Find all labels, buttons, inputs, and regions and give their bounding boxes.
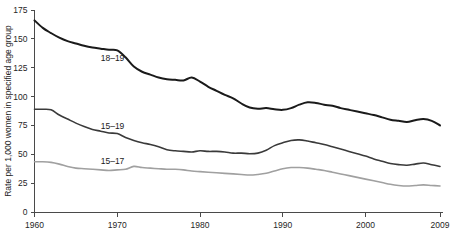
series-label-15-19: 15–19 (101, 121, 125, 131)
y-tick-label: 175 (13, 5, 27, 15)
y-tick-label: 150 (13, 34, 27, 44)
y-tick-label: 50 (18, 149, 28, 159)
series-label-group: 18–1915–1915–17 (101, 53, 125, 166)
series-line-15-19 (35, 109, 441, 166)
y-axis-title: Rate per 1,000 women in specified age gr… (3, 25, 13, 197)
x-tick-label: 2000 (356, 220, 375, 230)
y-axis-group: 0255075100125150175 (13, 5, 34, 217)
y-tick-label: 75 (18, 120, 28, 130)
x-tick-group: 196019701980199020002009 (25, 212, 450, 230)
x-axis-group: 196019701980199020002009 (25, 212, 450, 230)
teen-birth-rate-chart: 0255075100125150175 19601970198019902000… (0, 0, 451, 241)
series-label-18-19: 18–19 (101, 53, 125, 63)
x-tick-label: 1990 (273, 220, 292, 230)
x-tick-label: 1960 (25, 220, 44, 230)
y-tick-label: 25 (18, 178, 28, 188)
y-tick-label: 125 (13, 63, 27, 73)
x-tick-label: 2009 (431, 220, 450, 230)
y-tick-label: 100 (13, 92, 27, 102)
y-tick-group: 0255075100125150175 (13, 5, 34, 217)
chart-canvas: 0255075100125150175 19601970198019902000… (0, 0, 451, 241)
series-line-18-19 (35, 20, 441, 125)
y-tick-label: 0 (23, 207, 28, 217)
x-tick-label: 1980 (191, 220, 210, 230)
series-label-15-17: 15–17 (101, 156, 125, 166)
series-group (35, 20, 441, 186)
x-tick-label: 1970 (108, 220, 127, 230)
series-line-15-17 (35, 162, 441, 186)
